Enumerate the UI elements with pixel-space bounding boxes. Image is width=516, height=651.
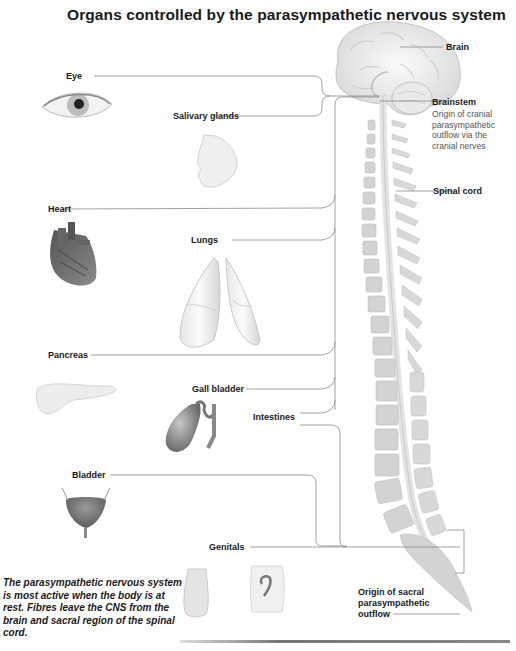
genitals-female-icon (251, 566, 285, 612)
label-genitals: Genitals (209, 542, 245, 552)
caption-note: The parasympathetic nervous system is mo… (3, 577, 183, 640)
leader-lines (62, 47, 464, 614)
gall-bladder-icon (166, 402, 214, 452)
label-brainstem: Brainstem (432, 97, 476, 107)
label-eye: Eye (66, 71, 82, 81)
lungs-icon (180, 258, 260, 347)
label-pancreas: Pancreas (48, 350, 88, 360)
label-gall-bladder: Gall bladder (192, 384, 244, 394)
label-spinal-cord: Spinal cord (433, 186, 482, 196)
label-bladder: Bladder (72, 470, 106, 480)
label-salivary-glands: Salivary glands (173, 111, 239, 121)
heart-icon (50, 222, 96, 286)
pancreas-icon (36, 384, 116, 414)
genitals-male-icon (184, 569, 208, 617)
bladder-icon (62, 488, 110, 538)
salivary-glands-icon (197, 135, 236, 187)
label-brain: Brain (446, 42, 469, 52)
brainstem-description: Origin of cranial parasympathetic outflo… (432, 109, 495, 151)
label-intestines: Intestines (253, 412, 295, 422)
eye-icon (42, 93, 112, 117)
label-sacral-origin: Origin of sacral parasympathetic outflow (358, 587, 430, 620)
label-lungs: Lungs (191, 235, 218, 245)
label-heart: Heart (48, 204, 71, 214)
spinous-processes-icon (392, 120, 447, 536)
page-bottom-rule (180, 640, 510, 643)
